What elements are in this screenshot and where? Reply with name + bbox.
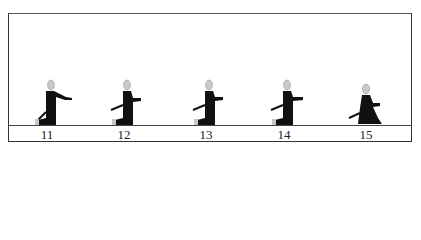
- kneeling-figure-icon: [32, 78, 82, 126]
- kneeling-figure-icon: [191, 78, 241, 126]
- figure-12: [109, 78, 159, 126]
- frame-label-11: 11: [32, 127, 62, 143]
- kneeling-figure-icon: [269, 78, 319, 126]
- figure-14: [269, 78, 319, 126]
- seated-figure-icon: [346, 78, 396, 126]
- kneeling-figure-icon: [109, 78, 159, 126]
- figure-15: [346, 78, 396, 126]
- frame-label-14: 14: [269, 127, 299, 143]
- frame-label-13: 13: [191, 127, 221, 143]
- figure-11: [32, 78, 82, 126]
- figure-13: [191, 78, 241, 126]
- frame-label-15: 15: [351, 127, 381, 143]
- frame-label-12: 12: [109, 127, 139, 143]
